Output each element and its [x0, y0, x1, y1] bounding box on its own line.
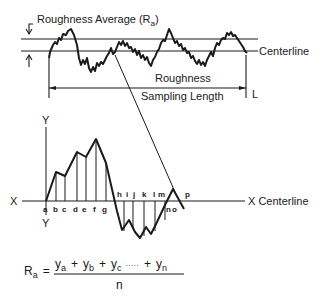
svg-text:a: a — [43, 205, 48, 214]
svg-text:d: d — [73, 205, 78, 214]
svg-text:l: l — [153, 190, 155, 199]
svg-text:Ra=: Ra= — [24, 264, 50, 280]
svg-text:o: o — [172, 205, 177, 214]
svg-text:j: j — [132, 190, 135, 199]
svg-text:f: f — [93, 205, 96, 214]
svg-text:ya+yb+yc·····+yn: ya+yb+yc·····+yn — [55, 257, 167, 273]
y-axis-label-top: Y — [42, 114, 50, 126]
ra-label: Roughness Average (Ra) — [37, 13, 159, 28]
ra-formula: Ra= ya+yb+yc·····+yn n — [24, 257, 184, 292]
svg-text:i: i — [126, 190, 128, 199]
svg-text:g: g — [102, 205, 107, 214]
length-label-2: Sampling Length — [141, 90, 224, 102]
svg-text:h: h — [117, 190, 122, 199]
enlarged-profile — [46, 139, 184, 238]
svg-text:b: b — [53, 205, 58, 214]
svg-text:c: c — [62, 205, 67, 214]
y-axis-label-bottom: Y — [42, 217, 50, 229]
length-symbol: L — [252, 88, 258, 100]
svg-text:k: k — [142, 190, 147, 199]
ra-bracket — [26, 24, 33, 67]
x-axis-label-left: X — [10, 195, 18, 207]
svg-text:p: p — [185, 190, 190, 199]
centerline-label: Centerline — [259, 45, 309, 57]
roughness-diagram: Roughness Average (Ra) Centerline Roughn… — [0, 0, 326, 298]
ordinates — [56, 139, 165, 236]
svg-text:m: m — [158, 190, 165, 199]
x-axis-label-right: X Centerline — [248, 195, 309, 207]
length-label-1: Roughness — [155, 72, 211, 84]
svg-text:e: e — [82, 205, 87, 214]
formula-denominator: n — [116, 278, 123, 292]
svg-text:n: n — [166, 205, 171, 214]
